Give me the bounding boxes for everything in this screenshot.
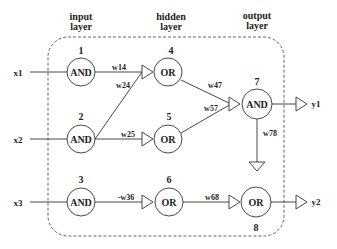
node-4-gate: OR [161, 67, 177, 78]
arrow-into-5 [142, 132, 153, 146]
weight-w24: w24 [116, 81, 130, 90]
weight-w25: w25 [121, 130, 135, 139]
output-layer-header-2: layer [246, 20, 268, 31]
arrow-into-4 [142, 65, 153, 79]
hidden-layer-header-2: layer [160, 21, 182, 32]
node-6-gate: OR [162, 197, 178, 208]
arrow-into-7 [229, 97, 240, 111]
node-5-id: 5 [167, 111, 172, 122]
node-3-gate: AND [70, 197, 92, 208]
node-2-gate: AND [70, 134, 92, 145]
node-4-id: 4 [169, 45, 174, 56]
node-7-gate: AND [246, 99, 268, 110]
edge-4-7 [181, 80, 231, 104]
node-8-gate: OR [249, 197, 265, 208]
output-y1: y1 [312, 99, 322, 109]
output-y2: y2 [312, 197, 322, 207]
node-3-id: 3 [79, 174, 84, 185]
input-x2: x2 [14, 135, 24, 145]
arrow-into-6 [142, 195, 153, 209]
node-6-id: 6 [167, 174, 172, 185]
weight-w47: w47 [208, 81, 222, 90]
arrow-into-8 [229, 195, 240, 209]
neural-logic-diagram: input layer hidden layer output layer [0, 0, 337, 249]
weight-w78: w78 [263, 129, 277, 138]
arrow-down-w78 [249, 162, 265, 171]
weight-w68: w68 [205, 193, 219, 202]
input-layer-header-2: layer [70, 21, 92, 32]
node-8-id: 8 [254, 222, 259, 233]
weight-w57: w57 [204, 104, 218, 113]
input-x1: x1 [14, 68, 24, 78]
arrow-y1 [296, 97, 307, 111]
input-x3: x3 [14, 198, 24, 208]
node-1-gate: AND [70, 67, 92, 78]
arrow-y2 [296, 195, 307, 209]
node-2-id: 2 [79, 111, 84, 122]
node-5-gate: OR [161, 134, 177, 145]
weight-w36: -w36 [118, 193, 134, 202]
node-7-id: 7 [255, 76, 260, 87]
node-1-id: 1 [79, 45, 84, 56]
weight-w14: w14 [112, 63, 126, 72]
